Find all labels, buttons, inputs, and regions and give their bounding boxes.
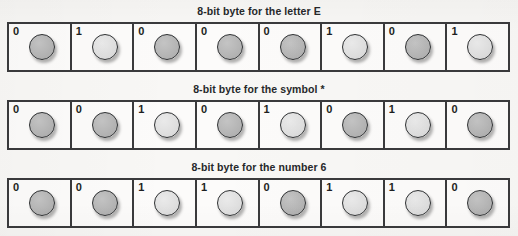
bit-label: 0 bbox=[201, 25, 207, 38]
bit-dot-icon bbox=[29, 34, 55, 60]
bit-dot-icon bbox=[280, 112, 306, 138]
bit-cell[interactable]: 1 bbox=[322, 24, 385, 70]
bit-cell[interactable]: 0 bbox=[72, 180, 135, 226]
bit-cell[interactable]: 1 bbox=[134, 180, 197, 226]
bit-dot-icon bbox=[217, 190, 243, 216]
byte-caption: 8-bit byte for the symbol * bbox=[0, 78, 518, 98]
bit-cell[interactable]: 0 bbox=[9, 24, 72, 70]
bit-label: 1 bbox=[138, 181, 144, 194]
bit-dot-icon bbox=[92, 190, 118, 216]
bit-cell[interactable]: 1 bbox=[134, 102, 197, 148]
bit-dot-icon bbox=[342, 34, 368, 60]
byte-caption: 8-bit byte for the letter E bbox=[0, 0, 518, 20]
bit-cell[interactable]: 0 bbox=[197, 24, 260, 70]
bit-label: 0 bbox=[76, 103, 82, 116]
bit-cell[interactable]: 0 bbox=[260, 180, 323, 226]
bit-dot-icon bbox=[467, 190, 493, 216]
byte-caption: 8-bit byte for the number 6 bbox=[0, 156, 518, 176]
bit-label: 0 bbox=[13, 103, 19, 116]
bit-cell[interactable]: 0 bbox=[9, 102, 72, 148]
bit-cell[interactable]: 1 bbox=[385, 180, 448, 226]
bit-cell[interactable]: 0 bbox=[322, 102, 385, 148]
bit-label: 1 bbox=[76, 25, 82, 38]
bit-label: 1 bbox=[389, 181, 395, 194]
bit-dot-icon bbox=[405, 112, 431, 138]
bit-dot-icon bbox=[154, 190, 180, 216]
byte-block-number-6: 8-bit byte for the number 6 0 0 1 1 0 bbox=[0, 156, 518, 228]
bit-label: 0 bbox=[264, 181, 270, 194]
bit-cell[interactable]: 0 bbox=[197, 102, 260, 148]
bit-dot-icon bbox=[342, 190, 368, 216]
bit-dot-icon bbox=[217, 112, 243, 138]
bit-label: 1 bbox=[201, 181, 207, 194]
bit-label: 1 bbox=[389, 103, 395, 116]
bit-cell[interactable]: 0 bbox=[72, 102, 135, 148]
bit-label: 0 bbox=[389, 25, 395, 38]
binary-byte-figure: 8-bit byte for the letter E 0 1 0 0 0 bbox=[0, 0, 518, 236]
bit-label: 1 bbox=[451, 25, 457, 38]
bit-label: 0 bbox=[13, 181, 19, 194]
bit-label: 0 bbox=[138, 25, 144, 38]
bit-dot-icon bbox=[29, 112, 55, 138]
bit-dot-icon bbox=[92, 112, 118, 138]
bit-dot-icon bbox=[467, 112, 493, 138]
bit-cell[interactable]: 0 bbox=[447, 102, 508, 148]
bit-dot-icon bbox=[342, 112, 368, 138]
bit-label: 1 bbox=[326, 181, 332, 194]
bit-dot-icon bbox=[29, 190, 55, 216]
bit-cell[interactable]: 0 bbox=[385, 24, 448, 70]
bit-dot-icon bbox=[154, 34, 180, 60]
byte-row: 0 1 0 0 0 1 0 bbox=[7, 22, 510, 72]
bit-cell[interactable]: 0 bbox=[447, 180, 508, 226]
bit-cell[interactable]: 1 bbox=[447, 24, 508, 70]
bit-label: 0 bbox=[326, 103, 332, 116]
bit-cell[interactable]: 1 bbox=[322, 180, 385, 226]
byte-block-symbol-asterisk: 8-bit byte for the symbol * 0 0 1 0 1 bbox=[0, 78, 518, 150]
bit-dot-icon bbox=[92, 34, 118, 60]
bit-cell[interactable]: 0 bbox=[134, 24, 197, 70]
byte-row: 0 0 1 1 0 1 1 bbox=[7, 178, 510, 228]
bit-label: 0 bbox=[201, 103, 207, 116]
bit-cell[interactable]: 1 bbox=[260, 102, 323, 148]
bit-cell[interactable]: 1 bbox=[385, 102, 448, 148]
bit-dot-icon bbox=[280, 34, 306, 60]
bit-cell[interactable]: 1 bbox=[197, 180, 260, 226]
bit-label: 1 bbox=[264, 103, 270, 116]
bit-cell[interactable]: 0 bbox=[260, 24, 323, 70]
bit-label: 1 bbox=[326, 25, 332, 38]
bit-label: 0 bbox=[76, 181, 82, 194]
bit-label: 0 bbox=[264, 25, 270, 38]
byte-block-letter-e: 8-bit byte for the letter E 0 1 0 0 0 bbox=[0, 0, 518, 72]
bit-cell[interactable]: 0 bbox=[9, 180, 72, 226]
bit-dot-icon bbox=[217, 34, 243, 60]
bit-dot-icon bbox=[467, 34, 493, 60]
bit-dot-icon bbox=[280, 190, 306, 216]
bit-dot-icon bbox=[405, 34, 431, 60]
bit-label: 0 bbox=[451, 181, 457, 194]
bit-label: 0 bbox=[451, 103, 457, 116]
bit-dot-icon bbox=[154, 112, 180, 138]
bit-label: 0 bbox=[13, 25, 19, 38]
bit-dot-icon bbox=[405, 190, 431, 216]
bit-label: 1 bbox=[138, 103, 144, 116]
bit-cell[interactable]: 1 bbox=[72, 24, 135, 70]
byte-row: 0 0 1 0 1 0 1 bbox=[7, 100, 510, 150]
